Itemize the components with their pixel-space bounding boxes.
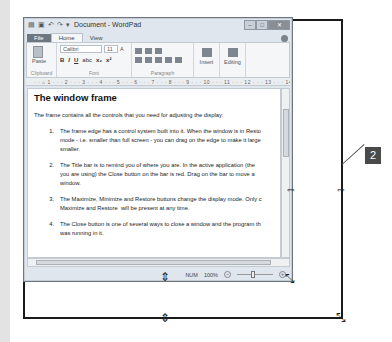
callout-badge: 2 — [365, 147, 381, 164]
close-button[interactable]: ✕ — [268, 20, 290, 30]
insert-group[interactable]: Insert — [194, 43, 220, 77]
ruler[interactable]: · · ⌂ 1 · · · 2 · · · 3 · · · 4 · · · 5 … — [26, 78, 290, 86]
binoculars-icon — [228, 48, 238, 57]
resize-horizontal-cursor-icon: ⇔ — [335, 183, 347, 195]
tab-view[interactable]: View — [83, 34, 110, 42]
status-bar: NUM 100% − + — [24, 268, 292, 281]
save-icon[interactable]: ▣ — [38, 21, 45, 29]
ribbon: Paste Clipboard Calibri 11 A B I U abc x… — [26, 42, 290, 78]
resize-vertical-cursor-icon: ⇕ — [160, 271, 170, 283]
zoom-out-button[interactable]: − — [224, 271, 231, 278]
callout-leader-line — [342, 144, 365, 165]
list-item: 4.The Close button is one of several way… — [34, 220, 274, 238]
paste-button[interactable]: Paste — [32, 58, 53, 64]
wordpad-window: ▤ ▣ ↶ ↷ ▾ Document - WordPad – □ ✕ File … — [23, 17, 293, 282]
horizontal-scroll-thumb[interactable] — [36, 260, 271, 265]
list-icon[interactable] — [155, 48, 162, 54]
undo-icon[interactable]: ↶ — [48, 21, 54, 29]
window-controls: – □ ✕ — [244, 20, 290, 30]
help-icon[interactable] — [281, 35, 288, 42]
vertical-scroll-thumb[interactable] — [283, 109, 289, 157]
font-size-select[interactable]: 11 — [104, 45, 118, 53]
document-intro: The frame contains all the controls that… — [34, 112, 274, 118]
resize-horizontal-cursor-icon: ⇔ — [285, 183, 297, 195]
font-family-select[interactable]: Calibri — [60, 45, 102, 53]
window-title: Document - WordPad — [74, 21, 244, 28]
justify-icon[interactable] — [165, 57, 172, 63]
list-item: 3.The Maximize, Minimize and Restore but… — [34, 195, 274, 213]
paragraph-group-label: Paragraph — [132, 70, 193, 76]
font-group: Calibri 11 A B I U abc x₂ x² Font — [57, 43, 132, 77]
redo-icon[interactable]: ↷ — [57, 21, 63, 29]
italic-button[interactable]: I — [68, 57, 70, 63]
maximize-button[interactable]: □ — [256, 20, 268, 30]
resize-diagonal-cursor-icon: ⤡ — [285, 273, 295, 285]
align-right-icon[interactable] — [155, 57, 162, 63]
ribbon-tabs: File Home View — [24, 31, 292, 42]
insert-picture-icon — [202, 48, 212, 57]
resize-vertical-cursor-icon: ⇕ — [160, 312, 170, 324]
document-list: 1.The frame edge has a control system bu… — [34, 127, 274, 238]
superscript-button[interactable]: x² — [106, 57, 111, 63]
strikethrough-button[interactable]: abc — [82, 57, 92, 63]
list-item: 1.The frame edge has a control system bu… — [34, 127, 274, 154]
app-menu-icon[interactable]: ▤ — [28, 21, 35, 29]
clipboard-group: Paste Clipboard — [27, 43, 57, 77]
tab-home[interactable]: Home — [51, 33, 83, 42]
quick-access-toolbar: ▤ ▣ ↶ ↷ ▾ — [28, 21, 70, 29]
left-margin-strip — [0, 0, 10, 342]
title-bar[interactable]: ▤ ▣ ↶ ↷ ▾ Document - WordPad – □ ✕ — [24, 18, 292, 31]
align-center-icon[interactable] — [145, 57, 152, 63]
dropdown-icon[interactable]: ▾ — [66, 21, 70, 29]
resize-diagonal-cursor-icon: ⤡ — [336, 312, 346, 324]
minimize-button[interactable]: – — [244, 20, 256, 30]
bold-button[interactable]: B — [60, 57, 64, 63]
line-spacing-icon[interactable] — [175, 57, 182, 63]
editing-group[interactable]: Editing — [220, 43, 246, 77]
document-area[interactable]: The window frame The frame contains all … — [27, 88, 281, 258]
document-heading: The window frame — [34, 92, 274, 103]
align-left-icon[interactable] — [135, 57, 142, 63]
horizontal-scrollbar[interactable] — [27, 258, 290, 267]
list-item: 2.The Title bar is to remind you of wher… — [34, 161, 274, 188]
insert-button-label: Insert — [200, 59, 214, 65]
paragraph-group: Paragraph — [132, 43, 194, 77]
paste-icon[interactable] — [33, 46, 43, 58]
editing-button-label: Editing — [224, 59, 241, 65]
font-group-label: Font — [57, 70, 131, 76]
underline-button[interactable]: U — [74, 57, 78, 63]
num-lock-indicator: NUM — [185, 272, 198, 278]
zoom-level: 100% — [204, 272, 218, 278]
increase-indent-icon[interactable] — [145, 48, 152, 54]
grow-font-icon[interactable]: A — [120, 46, 124, 52]
decrease-indent-icon[interactable] — [135, 48, 142, 54]
zoom-slider-knob[interactable] — [251, 271, 255, 278]
tab-file[interactable]: File — [27, 34, 51, 42]
clipboard-group-label: Clipboard — [27, 70, 56, 76]
zoom-slider[interactable] — [237, 274, 273, 275]
subscript-button[interactable]: x₂ — [96, 57, 102, 63]
vertical-scrollbar[interactable] — [281, 88, 290, 258]
